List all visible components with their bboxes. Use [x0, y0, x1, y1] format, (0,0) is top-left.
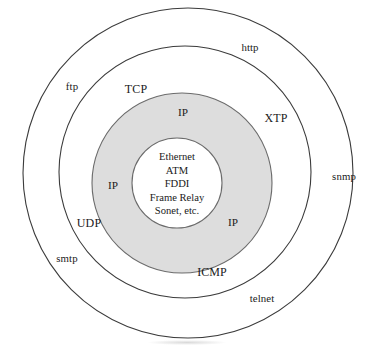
- protocol-wheel-diagram: http ftp snmp smtp telnet TCP XTP UDP IC…: [0, 0, 370, 353]
- protocol-wheel-svg: [0, 0, 370, 353]
- link-ring-circle: [132, 138, 222, 228]
